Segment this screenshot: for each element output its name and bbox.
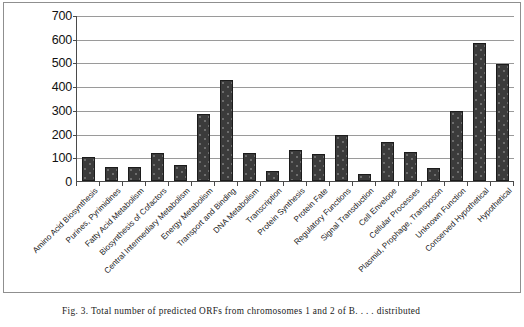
y-axis-tick-labels: 7006005004003002001000 [28, 16, 72, 182]
bar-chart: 7006005004003002001000 Amino Acid Biosyn… [4, 3, 520, 292]
bar-slot [468, 16, 491, 181]
bar [427, 168, 440, 181]
bar [358, 174, 371, 181]
bar [243, 153, 256, 181]
bar-slot [123, 16, 146, 181]
bar [151, 153, 164, 181]
bar-slot [330, 16, 353, 181]
bar [289, 150, 302, 181]
bar [266, 171, 279, 181]
bar [496, 64, 509, 181]
bar [450, 111, 463, 181]
bar [197, 114, 210, 181]
bar-series [77, 16, 514, 181]
y-axis-tick-label: 700 [52, 10, 72, 23]
y-axis-tick-label: 400 [52, 81, 72, 94]
bar-slot [445, 16, 468, 181]
bar [105, 167, 118, 181]
y-axis-tick-label: 100 [52, 152, 72, 165]
y-axis-tick-label: 600 [52, 33, 72, 46]
bar-slot [307, 16, 330, 181]
x-axis-category-labels: Amino Acid BiosynthesisPurines, Pyrimidi… [76, 187, 514, 293]
bar [128, 167, 141, 181]
y-axis-tick-label: 200 [52, 128, 72, 141]
bar-slot [146, 16, 169, 181]
y-axis-tick-label: 0 [65, 176, 72, 189]
bar [473, 43, 486, 181]
bar-slot [284, 16, 307, 181]
plot-area [76, 16, 514, 182]
bar [220, 80, 233, 181]
bar-slot [169, 16, 192, 181]
bar-slot [215, 16, 238, 181]
bar-slot [353, 16, 376, 181]
bar [404, 152, 417, 181]
bar [312, 154, 325, 181]
y-axis-tick-label: 300 [52, 105, 72, 118]
bar-slot [238, 16, 261, 181]
figure-caption: Fig. 3. Total number of predicted ORFs f… [0, 305, 524, 327]
bar [174, 165, 187, 181]
bar-slot [261, 16, 284, 181]
bar-slot [100, 16, 123, 181]
bar-slot [422, 16, 445, 181]
figure-frame: 7006005004003002001000 Amino Acid Biosyn… [3, 2, 521, 293]
bar-slot [192, 16, 215, 181]
bar-slot [77, 16, 100, 181]
bar-slot [399, 16, 422, 181]
bar-slot [376, 16, 399, 181]
bar [335, 135, 348, 181]
y-axis-tick-label: 500 [52, 57, 72, 70]
bar-slot [491, 16, 514, 181]
bar [82, 157, 95, 181]
bar [381, 142, 394, 181]
